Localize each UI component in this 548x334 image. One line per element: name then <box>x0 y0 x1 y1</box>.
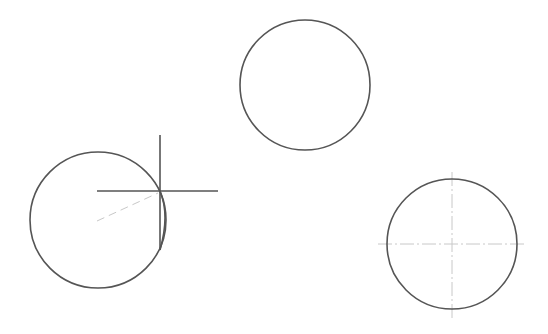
canvas-background <box>0 0 548 334</box>
drawing-canvas[interactable] <box>0 0 548 334</box>
